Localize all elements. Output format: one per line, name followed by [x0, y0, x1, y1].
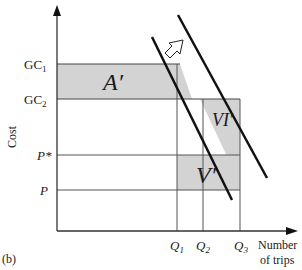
- gc2-label: GC2: [24, 92, 47, 109]
- pstar-label: P*: [36, 148, 52, 163]
- q2-label: Q2: [196, 238, 210, 255]
- p-label: P: [39, 183, 48, 198]
- region-a-prime-label: A′: [101, 69, 124, 95]
- region-vi-prime-label: VI′: [212, 110, 234, 130]
- panel-label: (b): [2, 252, 16, 266]
- gc1-label: GC1: [24, 57, 47, 74]
- x-axis-arrow-icon: [286, 227, 298, 235]
- demand-curve-shifted: [178, 15, 267, 178]
- x-axis-label-line1: Number: [258, 238, 297, 252]
- y-axis-label: Cost: [5, 125, 19, 148]
- x-axis-label-line2: of trips: [260, 253, 295, 267]
- transport-cost-diagram: GC1 GC2 P* P Cost Q1 Q2 Q3 Number of tri…: [0, 0, 302, 270]
- q1-label: Q1: [170, 238, 184, 255]
- y-axis-arrow-icon: [53, 5, 61, 16]
- region-v-prime-label: V′: [196, 162, 217, 188]
- q3-label: Q3: [234, 238, 248, 255]
- shift-arrow-icon: [165, 40, 183, 58]
